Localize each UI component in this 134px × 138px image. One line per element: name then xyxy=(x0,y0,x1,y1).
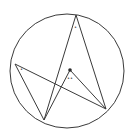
segment-b-t xyxy=(44,15,76,120)
angle-mark-center: •• xyxy=(67,75,73,81)
center-point xyxy=(68,68,72,72)
circle-outline xyxy=(10,14,124,128)
angle-mark-left: • xyxy=(20,66,23,72)
segments-group xyxy=(15,15,106,120)
circle-diagram: •••• xyxy=(0,0,134,138)
angle-mark-top: • xyxy=(74,24,77,30)
segment-o-r xyxy=(70,70,106,109)
segment-l-r xyxy=(15,64,106,109)
segment-t-r xyxy=(76,15,106,109)
segment-l-b xyxy=(15,64,44,120)
